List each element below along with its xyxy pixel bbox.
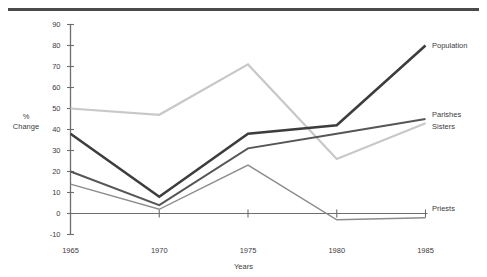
axis-lines — [67, 25, 428, 235]
chart-figure: % Change Years -100102030405060708090 19… — [0, 0, 487, 277]
series-line-population — [71, 46, 426, 197]
series-line-sisters — [71, 64, 426, 158]
plot-area — [0, 0, 487, 277]
series-lines — [71, 46, 426, 220]
series-line-parishes — [71, 119, 426, 205]
